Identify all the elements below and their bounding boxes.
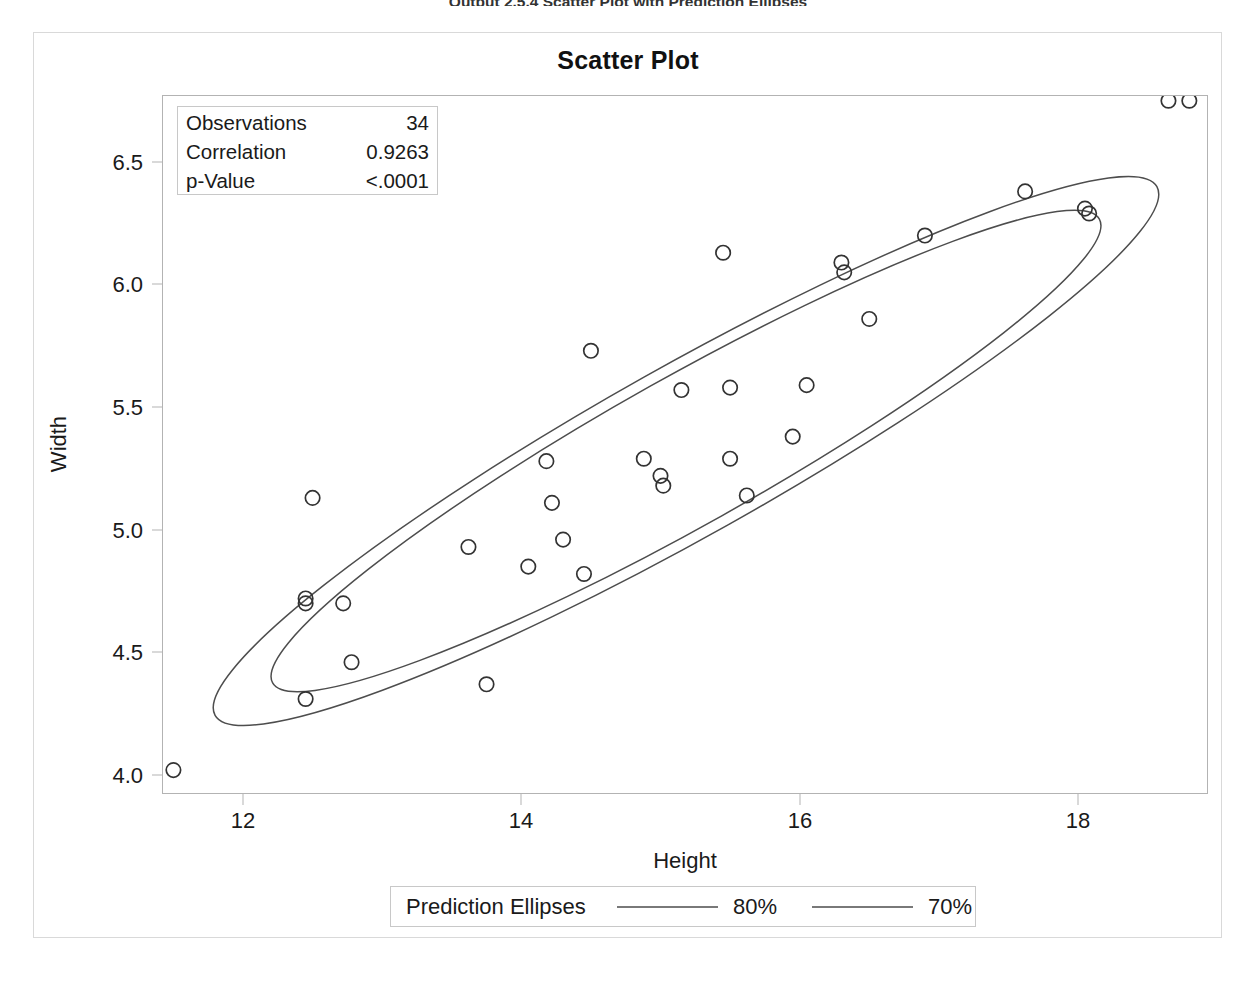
y-axis-ticks [152, 162, 163, 775]
data-point [653, 469, 667, 483]
statistics-box: Observations 34 Correlation 0.9263 p-Val… [178, 107, 438, 195]
x-tick-label-3: 18 [1066, 808, 1090, 833]
data-point [786, 429, 800, 443]
stat-label-0: Observations [186, 111, 307, 134]
y-tick-label-1: 4.5 [112, 640, 143, 665]
legend-title: Prediction Ellipses [406, 894, 586, 919]
y-tick-label-4: 6.0 [112, 272, 143, 297]
data-point [716, 246, 730, 260]
data-point [834, 255, 848, 269]
data-point [674, 383, 688, 397]
prediction-ellipse-70 [236, 154, 1135, 747]
x-tick-label-0: 12 [231, 808, 255, 833]
scatter-plot-svg: 12 14 16 18 4.0 4.5 5.0 5.5 6.0 6.5 Heig… [0, 0, 1256, 982]
x-axis-label: Height [653, 848, 717, 873]
data-point [862, 312, 876, 326]
data-point [577, 567, 591, 581]
data-point [344, 655, 358, 669]
data-point [461, 540, 475, 554]
stat-value-2: <.0001 [366, 169, 429, 192]
data-point [799, 378, 813, 392]
y-tick-label-2: 5.0 [112, 518, 143, 543]
data-point [740, 488, 754, 502]
legend-label-70: 70% [928, 894, 972, 919]
data-point [298, 692, 312, 706]
data-point [556, 532, 570, 546]
y-axis-label: Width [46, 416, 71, 472]
data-point [1018, 184, 1032, 198]
y-tick-label-0: 4.0 [112, 763, 143, 788]
stat-value-1: 0.9263 [366, 140, 429, 163]
data-point [637, 451, 651, 465]
data-point [336, 596, 350, 610]
data-points-group [166, 94, 1224, 778]
scatter-plot-page: Output 2.5.4 Scatter Plot with Predictio… [0, 0, 1256, 982]
prediction-ellipses-group [173, 113, 1198, 790]
chart-legend: Prediction Ellipses 80% 70% [391, 887, 976, 927]
data-point [545, 496, 559, 510]
data-point [521, 559, 535, 573]
x-tick-label-1: 14 [509, 808, 533, 833]
data-point [584, 344, 598, 358]
plot-area-frame [163, 96, 1208, 794]
x-axis-ticks [243, 794, 1078, 805]
data-point [166, 763, 180, 777]
y-tick-label-3: 5.5 [112, 395, 143, 420]
stat-value-0: 34 [406, 111, 429, 134]
data-point [656, 478, 670, 492]
stat-label-1: Correlation [186, 140, 286, 163]
data-point [539, 454, 553, 468]
x-tick-label-2: 16 [788, 808, 812, 833]
data-point [479, 677, 493, 691]
stat-label-2: p-Value [186, 169, 255, 192]
data-point [723, 451, 737, 465]
data-point [305, 491, 319, 505]
data-point [723, 380, 737, 394]
legend-label-80: 80% [733, 894, 777, 919]
data-point [1210, 128, 1224, 142]
y-tick-label-5: 6.5 [112, 150, 143, 175]
data-point [837, 265, 851, 279]
